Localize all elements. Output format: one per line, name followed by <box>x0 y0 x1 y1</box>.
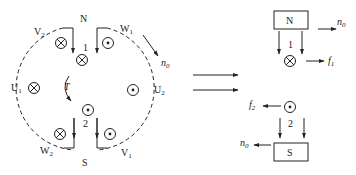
conductor-2-label: 2 <box>83 118 88 129</box>
force-f1-label: f1 <box>328 55 334 68</box>
south-pole-detail: f2 2 S n0 <box>240 99 308 161</box>
terminal-v2-label: V2 <box>34 26 45 39</box>
north-pole-label: N <box>80 13 87 24</box>
speed-label: n0 <box>161 57 170 70</box>
south-pole-box-label: S <box>287 147 293 158</box>
transition-arrows <box>193 75 238 90</box>
conductor-1-detail-cross-icon <box>285 56 296 67</box>
conductor-2-dot-icon <box>83 105 94 116</box>
conductor-2-detail-label: 2 <box>288 118 293 129</box>
conductor-2-detail-dot-icon <box>285 102 296 113</box>
terminal-w2-label: W2 <box>40 145 53 158</box>
conductor-dot-icon <box>105 129 116 140</box>
south-speed-label: n0 <box>240 137 249 150</box>
conductor-cross-icon <box>29 83 40 94</box>
terminal-v1-label: V1 <box>121 147 132 160</box>
conductor-dot-icon <box>128 85 139 96</box>
conductor-1-cross-icon <box>77 55 88 66</box>
rotation-speed-arrow-icon <box>143 35 158 56</box>
conductor-dot-icon <box>103 38 114 49</box>
conductor-1-detail-label: 1 <box>288 39 293 50</box>
conductor-cross-icon <box>55 129 66 140</box>
torque-label: T <box>64 81 71 92</box>
north-pole-detail: N n0 1 f1 <box>274 11 346 68</box>
terminal-u2-label: U2 <box>154 84 165 97</box>
south-pole-label: S <box>82 157 88 168</box>
stator-diagram: N S V2 W1 U1 U2 W2 V1 1 2 T n0 <box>11 13 170 168</box>
force-f2-label: f2 <box>249 99 256 112</box>
conductor-cross-icon <box>56 38 67 49</box>
north-speed-label: n0 <box>337 16 346 29</box>
north-pole-box-label: N <box>286 15 293 26</box>
conductor-1-label: 1 <box>83 42 88 53</box>
motor-diagram: N S V2 W1 U1 U2 W2 V1 1 2 T n0 N n0 1 f1 <box>0 0 356 175</box>
